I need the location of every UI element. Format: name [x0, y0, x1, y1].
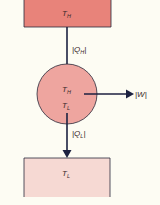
work-label: |W| — [135, 90, 147, 99]
hot-reservoir: TH — [24, 0, 111, 27]
heat-out-label: |QL| — [72, 129, 85, 139]
arrowhead-right-icon — [126, 90, 134, 99]
heat-in-label: |QH| — [72, 45, 86, 55]
cold-reservoir: TL — [24, 158, 110, 197]
arrowhead-down-icon — [63, 150, 72, 158]
heat-engine-diagram: TH |QH| TH TL |W| |QL| TL — [0, 0, 160, 205]
